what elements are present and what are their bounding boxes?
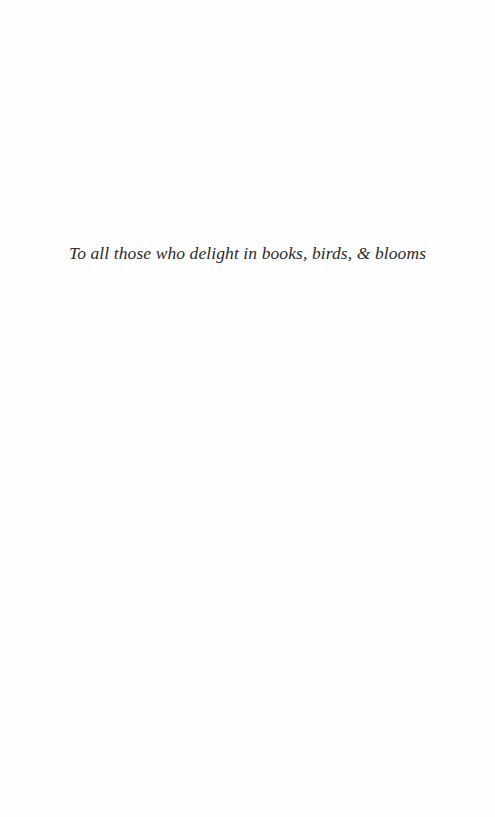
dedication-text: To all those who delight in books, birds… — [0, 243, 495, 264]
book-page: To all those who delight in books, birds… — [0, 0, 495, 817]
